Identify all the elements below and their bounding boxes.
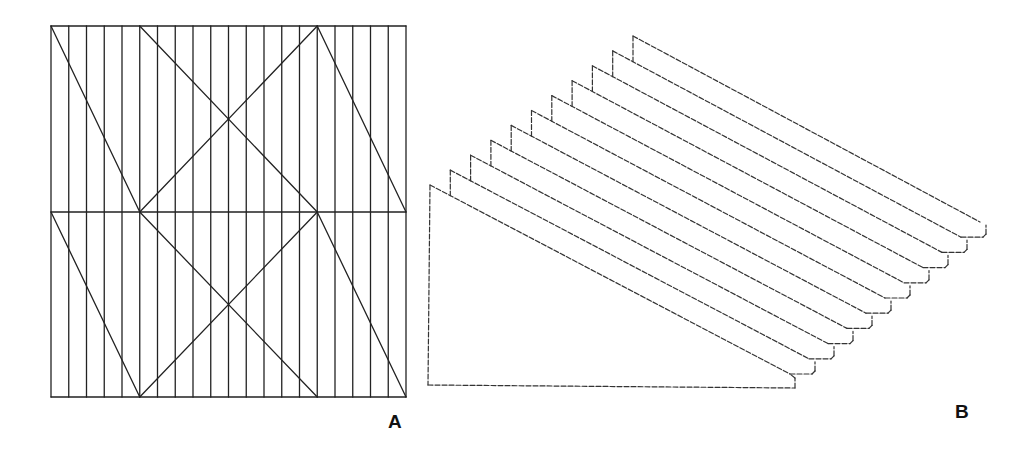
sheet-diagonal-edge bbox=[511, 125, 866, 313]
figure-b-stacked-staircase-sheets bbox=[428, 36, 986, 388]
sheet-right-step-corner bbox=[983, 234, 986, 237]
sheet-right-step-corner bbox=[945, 265, 948, 268]
sheet-right-step-corner bbox=[907, 295, 910, 298]
diagonal-right bbox=[317, 26, 406, 212]
figure-b-label: B bbox=[955, 402, 969, 421]
sheet-right-step-corner bbox=[812, 371, 815, 374]
sheet-diagonal-edge bbox=[572, 81, 923, 268]
sheet-diagonal-edge bbox=[491, 140, 847, 328]
sheet-diagonal-edge bbox=[633, 36, 980, 222]
base-left-edge bbox=[428, 185, 430, 385]
diagonal-left bbox=[51, 212, 140, 397]
diagonal-left bbox=[51, 26, 140, 212]
sheet-right-step-corner bbox=[831, 356, 834, 359]
base-bottom-edge bbox=[428, 385, 795, 388]
sheet-right-step-corner bbox=[926, 280, 929, 283]
figure-a-label: A bbox=[388, 412, 402, 431]
sheet-right-step-corner bbox=[869, 325, 872, 328]
figure-a-grid-with-diagonals bbox=[51, 26, 406, 397]
sheet-right-step-corner bbox=[888, 310, 891, 313]
sheet-right-step-corner bbox=[964, 249, 967, 252]
sheet-diagonal-edge bbox=[552, 96, 904, 283]
sheet-right-step-corner bbox=[850, 341, 853, 344]
sheet-diagonal-edge bbox=[532, 111, 886, 299]
sheet-diagonal-edge bbox=[592, 66, 942, 253]
sheet-diagonal-edge bbox=[613, 51, 961, 237]
diagonal-right bbox=[317, 212, 406, 397]
sheet-diagonal-edge bbox=[450, 170, 809, 359]
sheet-diagonal-edge bbox=[471, 155, 828, 343]
sheet-diagonal-edge bbox=[430, 185, 790, 374]
diagram-canvas bbox=[0, 0, 1031, 452]
